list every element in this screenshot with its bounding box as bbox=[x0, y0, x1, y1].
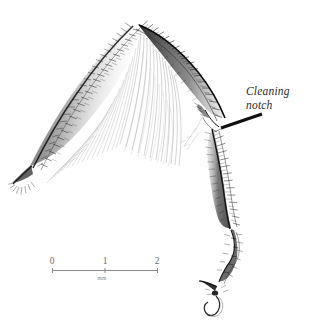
scale-tick-2: 2 bbox=[155, 256, 160, 266]
scale-tick-0: 0 bbox=[50, 256, 55, 266]
tarsal-segments bbox=[217, 229, 243, 284]
scale-tick-1: 1 bbox=[103, 256, 108, 266]
femur-segment bbox=[30, 24, 140, 170]
pretarsal-claw bbox=[199, 280, 228, 316]
leader-line bbox=[221, 114, 262, 128]
detached-hair-wisps bbox=[181, 119, 202, 150]
scale-unit-label: mm bbox=[97, 275, 106, 281]
illustration-figure: Cleaning notch 0 1 2 mm bbox=[0, 0, 309, 327]
scale-bar: 0 1 2 mm bbox=[52, 256, 158, 286]
cleaning-notch-label: Cleaning notch bbox=[246, 84, 306, 112]
basitarsus-segment bbox=[207, 128, 237, 229]
tibial-spur bbox=[9, 165, 35, 194]
